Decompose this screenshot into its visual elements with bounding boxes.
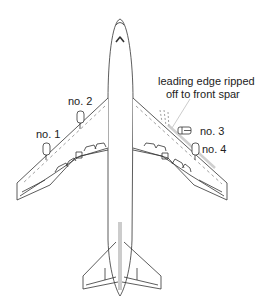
annotation-line-2: off to front spar — [166, 88, 240, 100]
annotation-pointer — [172, 99, 190, 128]
annotation-line-1: leading edge ripped — [158, 75, 255, 87]
engine-label-no4: no. 4 — [202, 143, 226, 155]
right-elevator-line — [124, 277, 158, 285]
engine-no3-detached — [178, 127, 191, 134]
engine-label-no1: no. 1 — [36, 128, 60, 140]
engine-label-no3: no. 3 — [200, 125, 224, 137]
left-wing — [17, 98, 108, 200]
engine-label-no2: no. 2 — [68, 95, 92, 107]
left-elevator-line — [86, 277, 116, 285]
fuselage — [108, 19, 133, 296]
aircraft-diagram: no. 2 no. 1 no. 3 no. 4 leading edge rip… — [0, 0, 262, 301]
